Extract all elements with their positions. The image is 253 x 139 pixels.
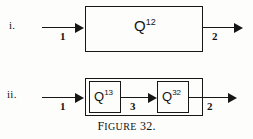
input-arrow-head-i [75, 23, 84, 33]
input-arrow-line-i [42, 27, 76, 28]
input-arrow-line-ii [42, 97, 76, 98]
block-q13-base: Q [94, 89, 104, 104]
block-q12-base: Q [134, 17, 146, 34]
middle-arrow-line-ii [121, 97, 149, 98]
output-arrow-line-i [203, 27, 236, 28]
middle-arrow-head-ii [148, 93, 157, 103]
block-q32-superscript: 32 [172, 88, 181, 97]
block-q13-superscript: 13 [104, 88, 113, 97]
input-arrow-head-ii [75, 93, 84, 103]
output-arrow-label-i: 2 [212, 31, 218, 42]
block-q32-base: Q [162, 89, 172, 104]
figure-caption-smallcaps: IGURE [104, 121, 137, 132]
output-arrow-label-ii: 2 [207, 101, 213, 112]
block-q32-label: Q32 [162, 88, 181, 104]
input-arrow-label-i: 1 [60, 31, 66, 42]
figure-caption: FIGURE 32. [0, 120, 253, 132]
output-arrow-head-i [234, 23, 243, 33]
diagram-row-label-ii: ii. [7, 89, 17, 100]
middle-arrow-label-ii: 3 [130, 101, 136, 112]
block-q12-superscript: 12 [146, 17, 156, 27]
output-arrow-head-ii [228, 93, 237, 103]
block-q12-label: Q12 [134, 18, 156, 34]
diagram-row-label-i: i. [9, 20, 15, 31]
block-q13-label: Q13 [94, 88, 113, 104]
figure-page: i. 1 Q12 2 ii. 1 Q13 3 Q32 2 FIGURE 32. [0, 0, 253, 139]
output-arrow-line-ii [189, 97, 229, 98]
input-arrow-label-ii: 1 [60, 101, 66, 112]
figure-caption-number-value: 32. [140, 119, 156, 133]
